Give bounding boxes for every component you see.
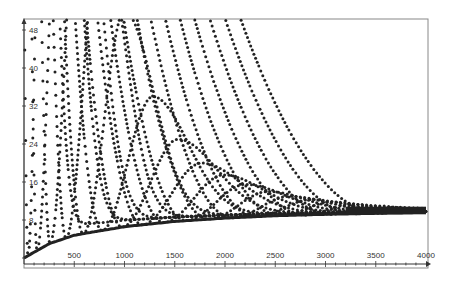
data-point	[88, 92, 91, 95]
data-point	[44, 182, 47, 185]
data-point	[277, 197, 280, 200]
data-point	[82, 128, 85, 131]
data-point	[164, 203, 167, 206]
data-point	[198, 87, 201, 90]
data-point	[142, 159, 145, 162]
data-point	[223, 173, 226, 176]
data-point	[150, 209, 153, 212]
data-point	[123, 191, 126, 194]
data-point	[217, 192, 220, 195]
data-point	[169, 207, 172, 210]
data-point	[252, 209, 255, 212]
data-point	[57, 153, 60, 156]
data-point	[279, 113, 282, 116]
data-point	[282, 184, 285, 187]
data-point	[292, 137, 295, 140]
data-point	[203, 150, 206, 153]
data-point	[117, 145, 120, 148]
data-point	[131, 140, 134, 143]
data-point	[127, 50, 130, 53]
data-point	[326, 209, 329, 212]
data-point	[238, 146, 241, 149]
data-point	[147, 185, 150, 188]
data-point	[125, 118, 128, 121]
data-point	[117, 75, 120, 78]
data-point	[156, 177, 159, 180]
data-point	[54, 217, 57, 220]
data-point	[202, 191, 205, 194]
data-point	[299, 195, 302, 198]
data-point	[236, 51, 239, 54]
data-point	[270, 195, 273, 198]
data-point	[88, 82, 91, 85]
data-point	[141, 108, 144, 111]
data-point	[25, 174, 28, 177]
data-point	[163, 79, 166, 82]
data-point	[261, 112, 264, 115]
data-point	[315, 172, 318, 175]
data-point	[224, 154, 227, 157]
data-point	[277, 144, 280, 147]
data-point	[156, 214, 159, 217]
data-point	[78, 74, 81, 77]
data-point	[103, 22, 106, 25]
data-point	[83, 25, 86, 28]
data-point	[265, 203, 268, 206]
data-point	[275, 140, 278, 143]
data-point	[304, 157, 307, 160]
data-point	[88, 58, 91, 61]
data-point	[242, 211, 245, 214]
data-point	[149, 84, 152, 87]
data-point	[120, 217, 123, 220]
data-point	[60, 129, 63, 132]
data-point	[55, 105, 58, 108]
data-point	[168, 98, 171, 101]
data-point	[219, 98, 222, 101]
data-point	[267, 192, 270, 195]
data-point	[216, 137, 219, 140]
data-point	[121, 165, 124, 168]
data-point	[76, 215, 79, 218]
data-point	[271, 133, 274, 136]
data-point	[161, 190, 164, 193]
data-point	[58, 164, 61, 167]
data-point	[183, 90, 186, 93]
data-point	[113, 142, 116, 145]
data-point	[32, 127, 35, 130]
data-point	[138, 138, 141, 141]
data-point	[181, 28, 184, 31]
data-point	[158, 159, 161, 162]
data-point	[297, 175, 300, 178]
data-point	[198, 137, 201, 140]
data-point	[301, 209, 304, 212]
data-point	[158, 202, 161, 205]
data-point	[261, 185, 264, 188]
data-point	[40, 216, 43, 219]
data-point	[230, 167, 233, 170]
data-point	[267, 211, 270, 214]
data-point	[167, 94, 170, 97]
data-point	[34, 233, 37, 236]
data-point	[207, 199, 210, 202]
data-point	[246, 36, 249, 39]
data-point	[33, 36, 36, 39]
data-point	[273, 190, 276, 193]
data-point	[185, 98, 188, 101]
data-point	[100, 50, 103, 53]
data-point	[183, 134, 186, 137]
data-point	[169, 40, 172, 43]
data-point	[109, 19, 112, 22]
data-point	[148, 96, 151, 99]
data-point	[223, 169, 226, 172]
data-point	[56, 125, 59, 128]
data-point	[248, 187, 251, 190]
data-point	[226, 212, 229, 215]
data-point	[99, 147, 102, 150]
data-point	[152, 213, 155, 216]
data-point	[272, 169, 275, 172]
data-point	[41, 80, 44, 83]
data-point	[139, 204, 142, 207]
data-point	[256, 204, 259, 207]
data-point	[75, 203, 78, 206]
data-point	[125, 164, 128, 167]
